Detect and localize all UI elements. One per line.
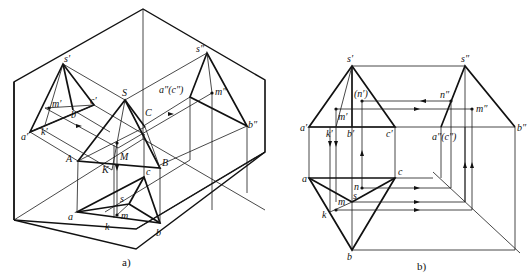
label-a-prime: a′ (21, 131, 29, 142)
label-m-double-b: m″ (476, 103, 488, 114)
label-n-double-b: n″ (440, 89, 450, 100)
label-a-b: a (302, 173, 307, 184)
label-a-c-double-b: a″(c″) (432, 131, 457, 143)
label-m: m (121, 210, 128, 221)
label-C: C (145, 107, 152, 118)
label-a: a (68, 211, 73, 222)
label-b-double-b: b″ (517, 122, 527, 133)
v-proj-outline (30, 64, 94, 132)
label-k-b: k (322, 209, 327, 220)
label-c-prime: c′ (90, 95, 97, 106)
label-M: M (119, 151, 129, 162)
label-s-double-b: s″ (461, 53, 470, 64)
label-n-prime-b: (n′) (354, 88, 369, 100)
caption-a: a) (122, 256, 131, 269)
label-k: k (105, 221, 110, 232)
label-B: B (162, 157, 168, 168)
panel-a: s′ s″ S C a″(c″) m′ c′ b′ a′ k′ m″ b″ A … (14, 9, 265, 269)
label-b-double: b″ (248, 119, 258, 130)
label-m-b: m (338, 196, 345, 207)
label-c-b: c (398, 166, 403, 177)
label-s: s (120, 193, 124, 204)
label-b-b: b (347, 251, 352, 262)
panel-b: s′ s″ (n′) n″ m′ m″ a′ k′ b′ c′ a″(c″) b… (300, 53, 527, 273)
label-b-prime: b′ (71, 109, 79, 120)
label-s-prime-b: s′ (347, 53, 354, 64)
caption-b: b) (417, 260, 427, 273)
label-k-prime: k′ (41, 126, 48, 137)
label-c-prime-b: c′ (386, 128, 393, 139)
projection-diagram: s′ s″ S C a″(c″) m′ c′ b′ a′ k′ m″ b″ A … (0, 0, 530, 279)
label-S: S (122, 87, 127, 98)
label-m-prime: m′ (52, 98, 62, 109)
label-s-b: s (353, 190, 357, 201)
label-k-prime-b: k′ (326, 128, 333, 139)
label-K: K (101, 164, 110, 175)
label-m-prime-b: m′ (338, 111, 348, 122)
label-a-prime-b: a′ (300, 122, 308, 133)
label-c: c (146, 166, 151, 177)
label-m-double: m″ (215, 86, 227, 97)
label-b: b (156, 227, 161, 238)
label-s-prime: s′ (64, 53, 71, 64)
label-s-double: s″ (196, 43, 205, 54)
mitre-line (433, 172, 520, 253)
label-A: A (65, 153, 73, 164)
label-a-c-double: a″(c″) (159, 84, 184, 96)
side-view-outline (441, 66, 515, 127)
label-b-prime-b: b′ (347, 128, 355, 139)
